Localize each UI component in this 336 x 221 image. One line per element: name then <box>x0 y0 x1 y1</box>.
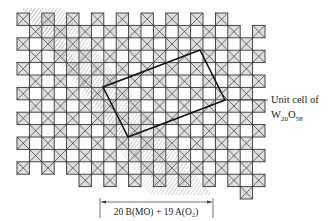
octahedron <box>17 137 29 149</box>
octahedron <box>240 63 252 75</box>
svg-text:Unit cell of: Unit cell of <box>271 94 319 105</box>
octahedron <box>29 75 41 87</box>
octahedron <box>42 87 54 99</box>
octahedron <box>29 125 41 137</box>
unit-cell-label: Unit cell of <box>271 94 319 105</box>
octahedron <box>129 50 141 62</box>
octahedron <box>215 38 227 50</box>
octahedron <box>17 38 29 50</box>
octahedron <box>129 25 141 37</box>
octahedron <box>67 162 79 174</box>
octahedron <box>42 137 54 149</box>
octahedron <box>91 162 103 174</box>
octahedron <box>191 63 203 75</box>
octahedron <box>141 87 153 99</box>
octahedron <box>54 100 66 112</box>
octahedron <box>191 13 203 25</box>
octahedron <box>203 25 215 37</box>
octahedron <box>42 112 54 124</box>
octahedron <box>253 50 265 62</box>
octahedron <box>240 137 252 149</box>
octahedron <box>141 38 153 50</box>
octahedron <box>228 100 240 112</box>
octahedron <box>54 125 66 137</box>
octahedron <box>67 87 79 99</box>
octahedron <box>253 25 265 37</box>
octahedron <box>253 125 265 137</box>
octahedron <box>153 100 165 112</box>
octahedron <box>104 149 116 161</box>
octahedron <box>17 63 29 75</box>
octahedron <box>228 25 240 37</box>
octahedron <box>79 149 91 161</box>
octahedron <box>153 75 165 87</box>
octahedron <box>253 75 265 87</box>
octahedron <box>191 112 203 124</box>
octahedron <box>191 38 203 50</box>
octahedron <box>240 87 252 99</box>
octahedron <box>203 149 215 161</box>
octahedron <box>228 50 240 62</box>
octahedron <box>104 174 116 186</box>
octahedron <box>17 87 29 99</box>
octahedron <box>203 125 215 137</box>
octahedron <box>178 75 190 87</box>
octahedron <box>42 162 54 174</box>
octahedron <box>253 149 265 161</box>
octahedron <box>116 38 128 50</box>
octahedron <box>67 137 79 149</box>
octahedron <box>215 162 227 174</box>
octahedron <box>215 112 227 124</box>
octahedron <box>91 13 103 25</box>
octahedron <box>67 112 79 124</box>
octahedron <box>228 149 240 161</box>
octahedron <box>215 13 227 25</box>
octahedron <box>253 174 265 186</box>
crystal-structure-diagram: Unit cell of W20O58 20 B(MO) + 19 A(O2) <box>0 0 336 221</box>
octahedron <box>215 63 227 75</box>
octahedron <box>116 162 128 174</box>
unit-cell-formula: W20O58 <box>271 109 303 123</box>
octahedron <box>240 38 252 50</box>
octahedron <box>228 125 240 137</box>
octahedron <box>79 125 91 137</box>
octahedron <box>104 25 116 37</box>
octahedron <box>17 162 29 174</box>
octahedron <box>42 63 54 75</box>
octahedron <box>54 149 66 161</box>
octahedron <box>166 13 178 25</box>
octahedron <box>141 13 153 25</box>
octahedron <box>166 63 178 75</box>
octahedron <box>79 174 91 186</box>
octahedron <box>29 100 41 112</box>
octahedron <box>191 87 203 99</box>
octahedron <box>166 38 178 50</box>
octahedron <box>54 75 66 87</box>
octahedron <box>17 112 29 124</box>
octahedron <box>240 112 252 124</box>
octahedron <box>203 174 215 186</box>
octahedron <box>191 137 203 149</box>
octahedron <box>240 162 252 174</box>
octahedron <box>116 63 128 75</box>
octahedron <box>215 137 227 149</box>
shear-band-label: 20 B(MO) + 19 A(O2) <box>114 207 199 218</box>
octahedron <box>228 174 240 186</box>
octahedron <box>253 100 265 112</box>
octahedron <box>153 50 165 62</box>
octahedron <box>29 50 41 62</box>
octahedron <box>178 25 190 37</box>
octahedron <box>104 50 116 62</box>
octahedron <box>178 100 190 112</box>
octahedron <box>29 149 41 161</box>
octahedron <box>228 75 240 87</box>
octahedron <box>91 137 103 149</box>
octahedron <box>153 25 165 37</box>
octahedron <box>116 13 128 25</box>
octahedron <box>240 187 252 199</box>
octahedron <box>166 87 178 99</box>
octahedron <box>178 125 190 137</box>
